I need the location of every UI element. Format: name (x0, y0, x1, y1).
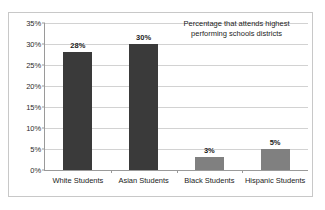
y-axis-label: 35% (26, 19, 41, 28)
chart-figure: 35%30%25%20%15%10%5%0% 28%30%3%5% White … (8, 12, 313, 197)
y-axis-tick (42, 107, 45, 108)
y-axis-label: 5% (30, 145, 41, 154)
y-axis-label: 30% (26, 40, 41, 49)
y-axis-label: 25% (26, 61, 41, 70)
bar: 30% (129, 44, 158, 170)
x-axis-tick (242, 170, 243, 173)
y-axis-tick (42, 23, 45, 24)
x-axis-category-label: Black Students (184, 176, 234, 185)
y-axis-tick (42, 86, 45, 87)
x-axis-category-label: Hispanic Students (245, 176, 305, 185)
x-axis-tick (177, 170, 178, 173)
y-axis-tick (42, 128, 45, 129)
bar-value-label: 28% (70, 41, 85, 50)
bar-value-label: 30% (136, 33, 151, 42)
y-axis-tick (42, 44, 45, 45)
plot-area: 35%30%25%20%15%10%5%0% 28%30%3%5% White … (44, 23, 308, 171)
x-axis-tick (111, 170, 112, 173)
bar: 3% (195, 157, 224, 170)
x-axis-category-label: Asian Students (118, 176, 168, 185)
y-axis-tick (42, 65, 45, 66)
chart-annotation: Percentage that attends highest performi… (167, 19, 307, 39)
y-axis-label: 15% (26, 103, 41, 112)
bar: 5% (261, 149, 290, 170)
y-axis-label: 20% (26, 82, 41, 91)
bar-value-label: 3% (204, 146, 215, 155)
y-axis-tick (42, 149, 45, 150)
y-axis-label: 0% (30, 166, 41, 175)
bar: 28% (63, 52, 92, 170)
bar-value-label: 5% (270, 138, 281, 147)
y-axis-tick (42, 170, 45, 171)
x-axis-category-label: White Students (52, 176, 103, 185)
y-axis-label: 10% (26, 124, 41, 133)
